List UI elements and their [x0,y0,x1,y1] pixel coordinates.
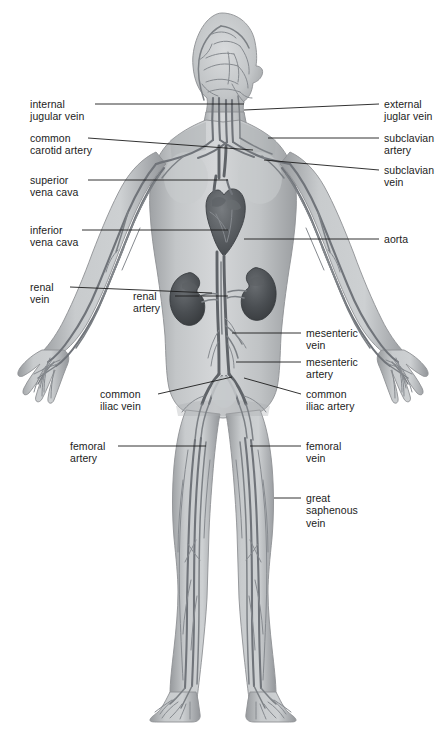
leader-external-jugular-vein [244,104,379,110]
label-common-iliac-artery: common iliac artery [306,388,354,413]
label-renal-vein: renal vein [30,281,54,306]
label-superior-vena-cava: superior vena cava [30,174,78,199]
label-internal-jugular-vein: internal jugular vein [30,98,84,123]
label-femoral-artery: femoral artery [70,440,105,465]
label-femoral-vein: femoral vein [306,440,341,465]
label-renal-artery: renal artery [133,290,160,315]
label-external-jugular-vein: external juglar vein [384,98,432,123]
label-mesenteric-artery: mesenteric artery [306,356,358,381]
label-subclavian-artery: subclavian artery [384,132,434,157]
label-mesenteric-vein: mesenteric vein [306,327,358,352]
label-common-iliac-vein: common iliac vein [100,388,141,413]
label-inferior-vena-cava: inferior vena cava [30,224,78,249]
label-aorta: aorta [384,233,408,245]
label-subclavian-vein: subclavian vein [384,164,434,189]
label-common-carotid-artery: common carotid artery [30,132,92,157]
circulatory-system-figure: .v { fill:none; stroke:#70747a; stroke-w… [0,0,446,733]
label-great-saphenous-vein: great saphenous vein [306,492,358,529]
